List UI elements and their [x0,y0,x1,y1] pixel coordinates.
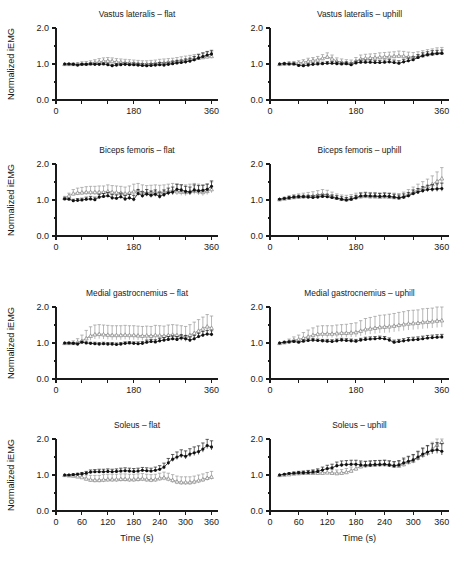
data-point-filled-circle [345,463,348,466]
data-point-filled-circle [393,196,396,199]
data-point-filled-circle [292,196,295,199]
data-point-filled-circle [111,196,114,199]
data-point-filled-circle [193,451,196,454]
y-axis-title: Normalized iEMG [6,28,16,100]
data-point-open-triangle [302,60,306,64]
data-point-filled-circle [416,455,419,458]
x-tick-label: 360 [434,385,449,395]
x-tick-label: 0 [267,385,272,395]
data-point-filled-circle [128,341,131,344]
data-point-open-triangle [84,477,88,481]
data-point-filled-circle [67,62,70,65]
data-point-open-triangle [93,332,97,336]
x-tick-label: 120 [100,517,115,527]
data-point-open-triangle [136,334,140,338]
data-point-filled-circle [402,60,405,63]
data-point-filled-circle [149,64,152,67]
data-point-open-triangle [179,480,183,484]
data-point-open-triangle [158,334,162,338]
data-point-filled-circle [141,194,144,197]
data-point-filled-circle [278,198,281,201]
data-point-filled-circle [373,61,376,64]
data-point-filled-circle [431,188,434,191]
data-point-open-triangle [123,192,127,196]
data-point-filled-circle [124,469,127,472]
data-point-filled-circle [89,471,92,474]
data-point-open-triangle [330,57,334,61]
data-point-filled-circle [292,340,295,343]
data-point-open-triangle [71,192,75,196]
data-point-filled-circle [85,472,88,475]
data-point-open-triangle [344,331,348,335]
data-point-open-triangle [330,471,334,475]
data-point-filled-circle [106,470,109,473]
data-point-open-triangle [123,477,127,481]
data-point-open-triangle [153,477,157,481]
data-point-filled-circle [145,341,148,344]
data-point-filled-circle [119,63,122,66]
data-point-open-triangle [162,476,166,480]
data-point-filled-circle [106,343,109,346]
data-point-filled-circle [141,469,144,472]
data-point-filled-circle [340,62,343,65]
x-tick-label: 300 [178,517,193,527]
data-point-filled-circle [85,198,88,201]
data-point-open-triangle [411,321,415,325]
data-point-filled-circle [119,469,122,472]
y-tick-label: 1.0 [36,338,49,348]
data-point-filled-circle [407,59,410,62]
data-point-filled-circle [210,52,213,55]
data-point-open-triangle [115,191,119,195]
data-point-filled-circle [106,194,109,197]
data-point-open-triangle [340,471,344,475]
data-point-filled-circle [307,471,310,474]
y-tick-label: 0.0 [250,231,263,241]
data-point-filled-circle [397,340,400,343]
data-point-open-triangle [123,333,127,337]
data-point-open-triangle [136,477,140,481]
data-point-filled-circle [331,466,334,469]
data-point-open-triangle [330,332,334,336]
x-tick-label: 180 [126,242,141,252]
data-point-filled-circle [102,62,105,65]
data-point-filled-circle [124,63,127,66]
data-point-open-triangle [132,189,136,193]
data-point-filled-circle [426,188,429,191]
data-point-filled-circle [388,195,391,198]
panel-vastus-lateralis-flat: Vastus lateralis – flat0.01.02.00180360N… [0,0,230,140]
panel-title: Biceps femoris – uphill [318,145,402,155]
x-tick-label: 240 [377,517,392,527]
data-point-open-triangle [311,333,315,337]
data-point-filled-circle [180,188,183,191]
data-point-filled-circle [137,469,140,472]
data-point-filled-circle [63,197,66,200]
data-point-filled-circle [283,62,286,65]
data-point-filled-circle [154,340,157,343]
data-point-filled-circle [184,60,187,63]
data-point-filled-circle [431,52,434,55]
y-tick-label: 0.0 [36,231,49,241]
axis-spine [56,439,218,511]
x-tick-label: 180 [126,517,141,527]
data-point-open-triangle [197,479,201,483]
data-point-filled-circle [359,61,362,64]
data-point-open-triangle [392,324,396,328]
x-tick-label: 0 [53,385,58,395]
data-point-filled-circle [302,195,305,198]
data-point-open-triangle [373,56,377,60]
data-point-filled-circle [193,188,196,191]
data-point-filled-circle [397,62,400,65]
x-tick-label: 0 [267,242,272,252]
data-point-open-triangle [149,334,153,338]
data-point-open-triangle [119,333,123,337]
panel-title: Biceps femoris – flat [99,145,175,155]
data-point-filled-circle [210,185,213,188]
data-point-filled-circle [307,64,310,67]
data-point-filled-circle [364,194,367,197]
data-point-open-triangle [407,322,411,326]
data-point-filled-circle [369,337,372,340]
data-point-filled-circle [89,197,92,200]
data-point-filled-circle [326,340,329,343]
data-point-filled-circle [311,63,314,66]
y-tick-label: 2.0 [250,23,263,33]
